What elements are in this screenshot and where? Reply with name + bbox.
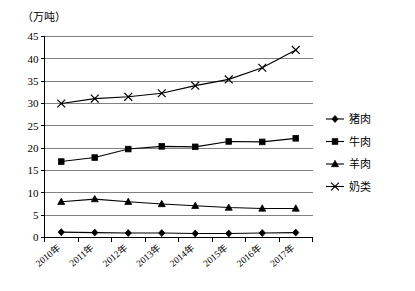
y-tick-label: 20	[28, 142, 40, 154]
data-point-marker	[258, 64, 266, 72]
x-tick-label: 2016年	[234, 242, 263, 269]
series-square	[58, 136, 298, 165]
data-series	[57, 46, 299, 237]
y-tick-label: 30	[28, 97, 40, 109]
y-tick-label: 35	[28, 75, 40, 87]
y-tick-label: 10	[28, 187, 40, 199]
data-point-marker	[159, 230, 165, 237]
data-point-marker	[192, 144, 198, 150]
x-tick-label: 2012年	[100, 242, 129, 269]
y-tick-label: 15	[28, 164, 40, 176]
x-tick-label: 2014年	[167, 242, 196, 269]
data-point-marker	[259, 139, 265, 145]
data-point-marker	[92, 155, 98, 161]
series-cross-x	[57, 46, 299, 107]
data-point-marker	[159, 144, 165, 150]
data-point-marker	[91, 195, 98, 201]
data-point-marker	[125, 146, 131, 152]
data-point-marker	[58, 229, 64, 236]
legend-label: 牛肉	[349, 135, 371, 148]
series-diamond	[58, 229, 299, 237]
legend-item-羊肉[interactable]: 羊肉	[326, 157, 371, 170]
legend-label: 猪肉	[349, 113, 371, 125]
y-tick-label: 25	[28, 120, 40, 132]
data-point-marker	[58, 159, 64, 165]
x-axis-ticks: 2010年2011年2012年2013年2014年2015年2016年2017年	[33, 238, 312, 269]
data-point-marker	[332, 139, 338, 145]
y-tick-label: 45	[28, 30, 40, 42]
x-tick-label: 2017年	[268, 242, 297, 269]
series-line	[61, 50, 296, 104]
y-tick-label: 0	[33, 231, 39, 243]
data-point-marker	[226, 230, 232, 237]
x-tick-label: 2011年	[67, 242, 96, 269]
plot-frame	[45, 37, 313, 238]
x-tick-label: 2013年	[134, 242, 163, 269]
data-point-marker	[332, 116, 338, 123]
gridlines	[45, 37, 313, 216]
data-point-marker	[293, 136, 299, 142]
data-point-marker	[226, 139, 232, 145]
data-point-marker	[293, 229, 299, 236]
legend-item-猪肉[interactable]: 猪肉	[326, 113, 371, 125]
legend-item-奶类[interactable]: 奶类	[326, 180, 371, 193]
y-axis-ticks: 051015202530354045	[28, 30, 45, 243]
data-point-marker	[292, 46, 300, 54]
data-point-marker	[125, 230, 131, 237]
x-tick-label: 2015年	[201, 242, 230, 269]
data-point-marker	[259, 230, 265, 237]
chart-legend: 猪肉牛肉羊肉奶类	[326, 113, 371, 193]
chart-plot-area: 051015202530354045 2010年2011年2012年2013年2…	[0, 0, 415, 291]
y-tick-label: 5	[33, 209, 39, 221]
data-point-marker	[92, 229, 98, 236]
data-point-marker	[192, 230, 198, 237]
y-tick-label: 40	[28, 53, 40, 65]
x-tick-label: 2010年	[33, 242, 62, 269]
line-chart: （万吨） 051015202530354045 2010年2011年2012年2…	[0, 0, 415, 291]
legend-label: 奶类	[349, 180, 371, 193]
legend-item-牛肉[interactable]: 牛肉	[326, 135, 371, 148]
legend-label: 羊肉	[349, 157, 371, 170]
series-triangle	[58, 195, 300, 211]
